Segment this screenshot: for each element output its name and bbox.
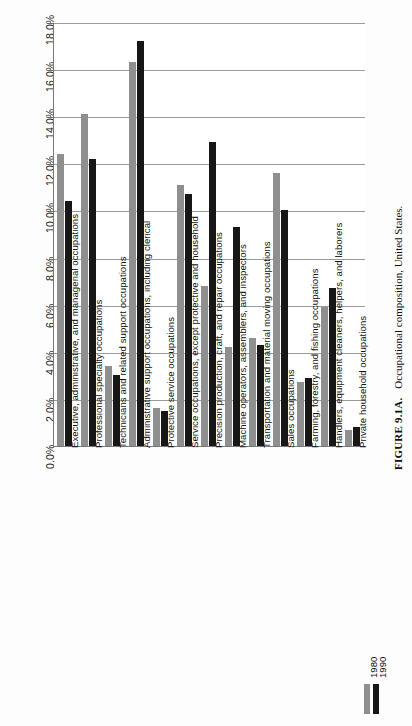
figure-caption: FIGURE 9.1A.Occupational composition, Un… [392, 206, 404, 470]
y-axis-tick [49, 447, 54, 448]
category-axis-labels: Executive, administrative, and manageria… [0, 450, 412, 726]
bar-1980 [81, 114, 88, 446]
bar-1980 [129, 62, 136, 446]
category-label: Service occupations, except protective a… [189, 216, 200, 448]
bar-1980 [249, 338, 256, 446]
category-label: Protective service occupations [165, 317, 176, 448]
category-label: Transportation and material moving occup… [261, 241, 272, 448]
legend-label-1990: 1990 [377, 657, 388, 678]
bar-1980 [321, 307, 328, 446]
category-label: Sales occupations [285, 369, 296, 448]
legend-swatch-1990 [373, 684, 379, 714]
bar-1980 [345, 430, 352, 446]
bar-1980 [225, 347, 232, 446]
figure-number: FIGURE 9.1A. [392, 398, 404, 470]
bar-1980 [201, 286, 208, 446]
category-label: Technicians and related support occupati… [117, 257, 128, 448]
y-axis-labels: 0.0%2.0%4.0%6.0%8.0%10.0%12.0%14.0%16.0%… [0, 0, 53, 470]
category-label: Farming, forestry, and fishing occupatio… [309, 269, 320, 449]
category-label: Administrative support occupations, incl… [141, 221, 152, 448]
bar-1980 [57, 154, 64, 446]
legend-swatch-1980 [364, 684, 370, 714]
category-label: Executive, administrative, and manageria… [69, 214, 80, 448]
category-label: Precision production, craft, and repair … [213, 232, 224, 448]
figure-caption-text: Occupational composition, United States. [392, 206, 404, 389]
bar-1980 [297, 382, 304, 446]
bar-1980 [153, 408, 160, 446]
category-label: Machine operators, assemblers, and inspe… [237, 244, 248, 448]
category-label: Professional specialty occupations [93, 300, 104, 448]
legend: 19801990 [356, 640, 412, 726]
bar-1980 [105, 366, 112, 446]
bar-1980 [177, 185, 184, 446]
category-label: Handlers, equipment cleaners, helpers, a… [333, 223, 344, 448]
figure-page: 0.0%2.0%4.0%6.0%8.0%10.0%12.0%14.0%16.0%… [0, 0, 412, 726]
category-label: Private household occupations [357, 316, 368, 448]
bar-1980 [273, 173, 280, 446]
